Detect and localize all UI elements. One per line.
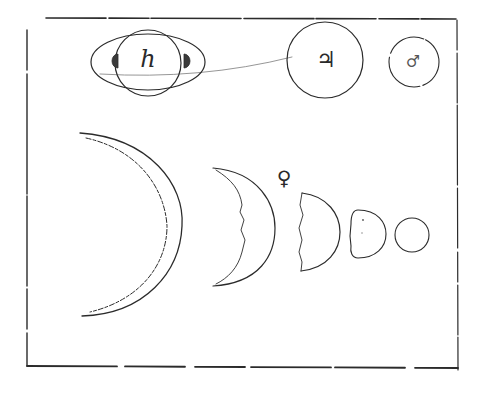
saturn-symbol: h — [140, 47, 155, 71]
connecting-line — [100, 57, 292, 75]
venus-phase-crescent — [213, 168, 275, 286]
venus-phase-half — [299, 193, 340, 271]
saturn-left-handle — [112, 54, 118, 68]
mars-symbol: ♂ — [406, 54, 420, 70]
saturn-right-handle — [184, 54, 190, 68]
venus-phase-full — [395, 218, 429, 252]
venus-phase-gibbous — [350, 210, 386, 258]
venus-phase-large-crescent — [80, 133, 182, 316]
jupiter-symbol: ♃ — [316, 49, 336, 71]
venus-symbol: ♀ — [277, 168, 292, 188]
drawing-frame — [27, 18, 458, 370]
